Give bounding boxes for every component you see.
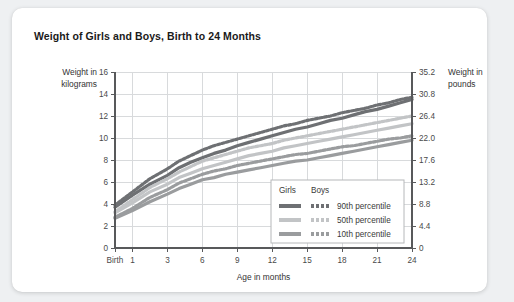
x-tick-label: Birth [107, 256, 124, 265]
x-tick-label: 3 [165, 256, 170, 265]
x-axis-title: Age in months [237, 272, 291, 282]
legend-layer: GirlsBoys90th percentile50th percentile1… [271, 180, 404, 243]
y-axis-title: kilograms [61, 79, 97, 89]
growth-chart-figure: 024681012141604.48.813.217.622.026.430.8… [12, 8, 514, 302]
x-tick-label: 6 [200, 256, 205, 265]
y2-tick-label: 17.6 [419, 156, 435, 165]
x-tick-label: 12 [268, 256, 278, 265]
y2-tick-label: 13.2 [419, 178, 435, 187]
x-tick-label: 15 [303, 256, 313, 265]
y-axis-title: Weight in [62, 67, 97, 77]
legend-header-boys: Boys [311, 186, 329, 195]
x-tick-label: 21 [373, 256, 383, 265]
chart-card: Weight of Girls and Boys, Birth to 24 Mo… [12, 8, 487, 292]
y2-tick-label: 4.4 [419, 222, 431, 231]
y-tick-label: 4 [103, 200, 108, 209]
x-tick-label: 1 [130, 256, 135, 265]
y2-tick-label: 22.0 [419, 134, 435, 143]
y-tick-label: 2 [103, 222, 108, 231]
legend-header-girls: Girls [279, 186, 296, 195]
x-tick-label: 9 [235, 256, 240, 265]
y2-tick-label: 26.4 [419, 112, 435, 121]
y-tick-label: 10 [99, 134, 109, 143]
legend-item-label: 50th percentile [337, 216, 391, 225]
y2-tick-label: 8.8 [419, 200, 431, 209]
x-tick-label: 24 [407, 256, 417, 265]
legend-item-label: 90th percentile [337, 202, 391, 211]
y2-tick-label: 0 [419, 244, 424, 253]
y-tick-label: 14 [99, 90, 109, 99]
x-tick-label: 18 [338, 256, 348, 265]
y-tick-label: 16 [99, 68, 109, 77]
legend-item-label: 10th percentile [337, 230, 391, 239]
y-tick-label: 8 [103, 156, 108, 165]
y-tick-label: 0 [103, 244, 108, 253]
y2-axis-title: Weight in [448, 67, 483, 77]
y2-axis-title: pounds [448, 79, 475, 89]
y2-tick-label: 35.2 [419, 68, 435, 77]
y-tick-label: 6 [103, 178, 108, 187]
y-tick-label: 12 [99, 112, 109, 121]
y2-tick-label: 30.8 [419, 90, 435, 99]
